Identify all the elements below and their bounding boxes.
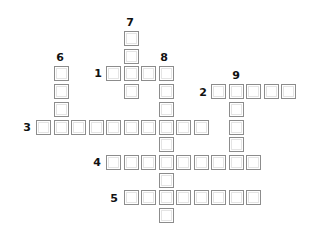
grid-cell[interactable]: [194, 155, 209, 170]
grid-cell[interactable]: [71, 120, 86, 135]
grid-cell[interactable]: [54, 66, 69, 81]
grid-cell[interactable]: [176, 190, 191, 205]
grid-cell[interactable]: [246, 190, 261, 205]
grid-cell[interactable]: [106, 155, 121, 170]
grid-cell[interactable]: [36, 120, 51, 135]
grid-cell[interactable]: [54, 84, 69, 99]
grid-cell[interactable]: [106, 120, 121, 135]
grid-cell[interactable]: [229, 120, 244, 135]
grid-cell[interactable]: [124, 120, 139, 135]
grid-cell[interactable]: [211, 190, 226, 205]
grid-cell[interactable]: [281, 84, 296, 99]
grid-cell[interactable]: [124, 49, 139, 64]
grid-cell[interactable]: [141, 66, 156, 81]
grid-cell[interactable]: [229, 190, 244, 205]
grid-cell[interactable]: [176, 155, 191, 170]
grid-cell[interactable]: [264, 84, 279, 99]
grid-cell[interactable]: [54, 120, 69, 135]
grid-cell[interactable]: [159, 173, 174, 188]
grid-cell[interactable]: [124, 190, 139, 205]
grid-cell[interactable]: [176, 120, 191, 135]
grid-cell[interactable]: [124, 155, 139, 170]
crossword-grid: 123456789: [0, 0, 313, 237]
grid-cell[interactable]: [229, 155, 244, 170]
clue-number-9: 9: [230, 70, 242, 81]
grid-cell[interactable]: [211, 84, 226, 99]
grid-cell[interactable]: [124, 84, 139, 99]
grid-cell[interactable]: [211, 155, 226, 170]
grid-cell[interactable]: [159, 84, 174, 99]
clue-number-2: 2: [197, 87, 209, 98]
grid-cell[interactable]: [141, 155, 156, 170]
clue-number-4: 4: [91, 157, 103, 168]
grid-cell[interactable]: [229, 137, 244, 152]
grid-cell[interactable]: [159, 120, 174, 135]
grid-cell[interactable]: [229, 84, 244, 99]
grid-cell[interactable]: [159, 137, 174, 152]
grid-cell[interactable]: [159, 66, 174, 81]
grid-cell[interactable]: [141, 120, 156, 135]
clue-number-6: 6: [54, 52, 66, 63]
grid-cell[interactable]: [89, 120, 104, 135]
grid-cell[interactable]: [141, 190, 156, 205]
clue-number-5: 5: [108, 193, 120, 204]
grid-cell[interactable]: [159, 102, 174, 117]
grid-cell[interactable]: [159, 208, 174, 223]
grid-cell[interactable]: [194, 120, 209, 135]
grid-cell[interactable]: [106, 66, 121, 81]
grid-cell[interactable]: [194, 190, 209, 205]
grid-cell[interactable]: [246, 84, 261, 99]
grid-cell[interactable]: [229, 102, 244, 117]
grid-cell[interactable]: [124, 66, 139, 81]
grid-cell[interactable]: [124, 31, 139, 46]
clue-number-1: 1: [92, 68, 104, 79]
clue-number-3: 3: [21, 122, 33, 133]
clue-number-7: 7: [124, 17, 136, 28]
grid-cell[interactable]: [159, 155, 174, 170]
grid-cell[interactable]: [246, 155, 261, 170]
grid-cell[interactable]: [159, 190, 174, 205]
clue-number-8: 8: [158, 52, 170, 63]
grid-cell[interactable]: [54, 102, 69, 117]
